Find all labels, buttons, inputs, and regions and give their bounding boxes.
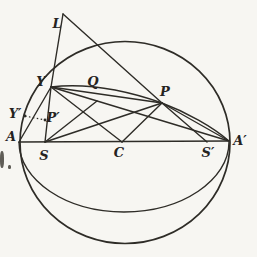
point-label-A: A	[6, 130, 16, 143]
point-label-Q: Q	[87, 75, 98, 88]
point-label-P: P	[160, 85, 170, 98]
segment-Y-Ap	[51, 87, 229, 141]
page-edge-smudge-1	[8, 165, 11, 169]
point-label-A-prime: A′	[233, 134, 247, 147]
point-label-C: C	[114, 146, 124, 159]
point-label-S-prime: S′	[202, 146, 215, 159]
page-edge-smudge-0	[0, 151, 4, 168]
dotted-segment-Yp-Pp	[25, 116, 45, 120]
segment-A-Ap	[19, 141, 229, 142]
point-label-L: L	[52, 17, 61, 30]
point-label-Y-prime: Y′	[9, 107, 22, 120]
point-label-P-prime: P′	[46, 111, 59, 124]
segment-P-Ap	[162, 103, 229, 141]
segment-C-P	[122, 103, 162, 142]
segment-S-P	[45, 103, 162, 142]
point-dot-Yp	[24, 115, 27, 118]
point-label-Y: Y	[36, 75, 45, 88]
point-label-S: S	[39, 149, 48, 162]
geometry-figure	[0, 0, 257, 257]
diagram-page: LYQPY′P′ASCS′A′	[0, 0, 257, 257]
